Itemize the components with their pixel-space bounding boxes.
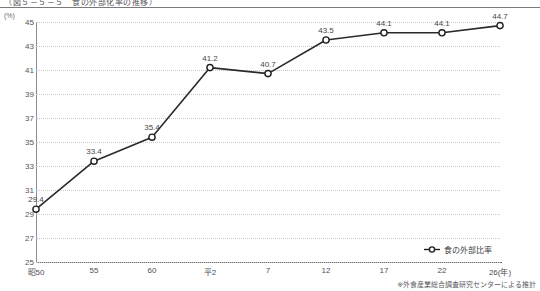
y-axis-tick-label: 33 <box>10 162 34 171</box>
open-circle-marker-icon <box>424 245 440 254</box>
plot-area: 29.433.435.441.240.743.544.144.144.7 <box>36 22 500 262</box>
data-point-marker <box>207 65 213 71</box>
y-axis-tick-label: 43 <box>10 42 34 51</box>
data-point-marker <box>91 158 97 164</box>
line-chart: (%) 4543413937353331292725 昭505560平27121… <box>0 8 540 291</box>
y-axis-tick-label: 39 <box>10 90 34 99</box>
data-point-marker <box>33 206 39 212</box>
figure-title: （図５－５－５ 食の外部化率の推移） <box>4 0 157 7</box>
x-axis-tick-label: 平2 <box>204 266 216 277</box>
data-point-label: 44.1 <box>434 19 450 28</box>
series-markers <box>33 23 503 213</box>
x-axis-tick-label: 22 <box>438 266 447 275</box>
data-point-marker <box>265 71 271 77</box>
series-line-food-externalization <box>36 22 500 262</box>
legend-label: 食の外部比率 <box>444 244 492 255</box>
data-point-marker <box>149 134 155 140</box>
y-axis-tick-label: 29 <box>10 210 34 219</box>
data-point-label: 35.4 <box>144 123 160 132</box>
y-axis-tick-label: 31 <box>10 186 34 195</box>
x-axis-tick-label: 昭50 <box>28 266 45 277</box>
y-axis-tick-label: 45 <box>10 18 34 27</box>
data-point-label: 40.7 <box>260 60 276 69</box>
x-axis-tick-label: 60 <box>148 266 157 275</box>
data-point-label: 44.7 <box>492 12 508 21</box>
y-axis-tick-label: 35 <box>10 138 34 147</box>
chart-footnote: ※外食産業総合調査研究センターによる推計 <box>397 279 536 289</box>
data-point-label: 43.5 <box>318 26 334 35</box>
data-point-marker <box>381 30 387 36</box>
x-axis-tick-label: 55 <box>90 266 99 275</box>
y-axis-tick-label: 41 <box>10 66 34 75</box>
data-point-label: 29.4 <box>28 195 44 204</box>
data-point-label: 41.2 <box>202 54 218 63</box>
gridline <box>36 262 500 263</box>
x-axis-tick-label: 7 <box>266 266 270 275</box>
series-path <box>36 26 500 210</box>
data-point-marker <box>439 30 445 36</box>
data-point-label: 44.1 <box>376 19 392 28</box>
data-point-marker <box>323 37 329 43</box>
data-point-label: 33.4 <box>86 147 102 156</box>
data-point-marker <box>497 23 503 29</box>
x-axis-tick-label: 26(年) <box>489 266 511 277</box>
x-axis-tick-label: 12 <box>322 266 331 275</box>
chart-legend: 食の外部比率 <box>424 244 492 255</box>
y-axis-tick-label: 37 <box>10 114 34 123</box>
y-axis-tick-label: 27 <box>10 234 34 243</box>
x-axis-tick-label: 17 <box>380 266 389 275</box>
